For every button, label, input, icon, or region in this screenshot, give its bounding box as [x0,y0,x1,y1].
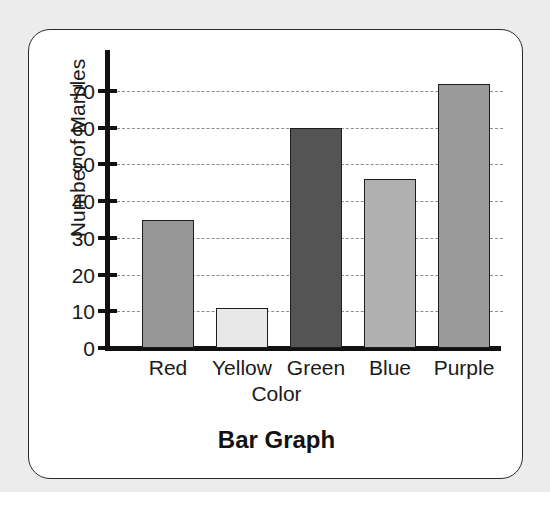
y-axis-tick-label: 10 [72,301,95,322]
y-axis-tick-label: 50 [72,154,95,175]
bar-blue [364,179,416,348]
x-axis-category-label: Blue [369,356,411,380]
bar-purple [438,84,490,348]
y-axis-tick [98,89,117,93]
bar-red [142,220,194,349]
chart-card: Number of Marbles 010203040506070RedYell… [28,29,523,479]
y-axis-tick-label: 70 [72,81,95,102]
y-axis-tick [98,162,117,166]
y-axis-tick [98,199,117,203]
y-axis-tick [98,273,117,277]
y-axis-tick-label: 30 [72,227,95,248]
x-axis-category-label: Red [149,356,188,380]
plot-area: 010203040506070RedYellowGreenBluePurple [105,50,501,350]
y-axis-tick-label: 40 [72,191,95,212]
y-axis-tick-label: 60 [72,117,95,138]
x-axis-category-label: Green [287,356,345,380]
y-axis-tick [98,309,117,313]
y-axis-tick-label: 20 [72,264,95,285]
x-axis-category-label: Yellow [212,356,272,380]
chart-title: Bar Graph [29,426,524,454]
page-background: Number of Marbles 010203040506070RedYell… [0,0,550,516]
bar-green [290,128,342,348]
y-axis-tick-label: 0 [83,338,95,359]
bar-chart: Number of Marbles 010203040506070RedYell… [29,30,524,480]
x-axis-category-label: Purple [434,356,495,380]
y-axis-tick [98,126,117,130]
bar-yellow [216,308,268,348]
y-axis-tick [98,346,117,350]
y-axis-tick [98,236,117,240]
x-axis-label: Color [29,382,524,406]
